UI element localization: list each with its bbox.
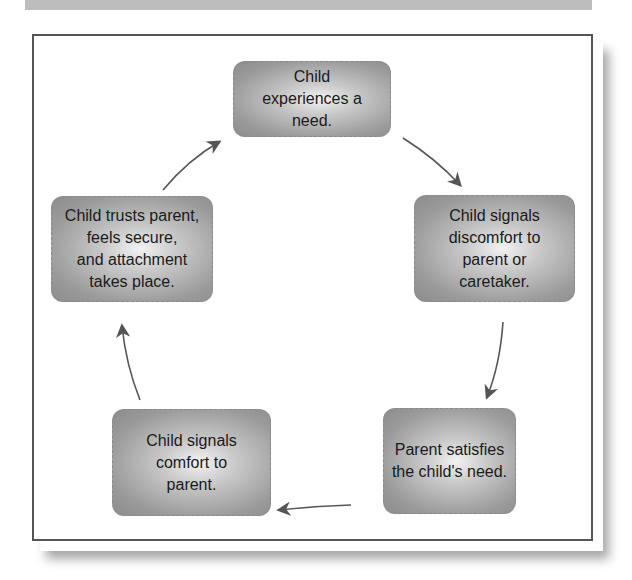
arrow-need-to-discomfort-icon (403, 138, 460, 185)
arrow-satisfies-to-comfort-icon (279, 505, 351, 510)
arrow-discomfort-to-satisfies-icon (487, 322, 503, 397)
arrow-attachment-to-need-icon (163, 142, 219, 190)
arrow-comfort-to-attachment-icon (122, 326, 140, 400)
cycle-arrows (0, 0, 632, 580)
